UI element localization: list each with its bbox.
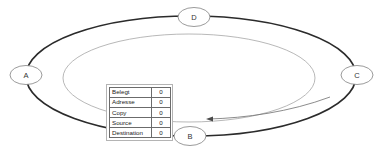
table-row: Adresse 0 bbox=[110, 98, 171, 108]
table-row: Destination 0 bbox=[110, 128, 171, 138]
table-cell-value: 0 bbox=[152, 88, 171, 98]
table-cell-value: 0 bbox=[152, 98, 171, 108]
node-d-label: D bbox=[191, 13, 197, 22]
table-cell-field: Adresse bbox=[110, 98, 152, 108]
table-cell-field: Source bbox=[110, 118, 152, 128]
node-b-label: B bbox=[187, 132, 192, 141]
table-cell-value: 0 bbox=[152, 118, 171, 128]
table-row: Source 0 bbox=[110, 118, 171, 128]
attributes-table-panel: Belegt 0 Adresse 0 Copy 0 Source 0 Desti… bbox=[106, 84, 173, 141]
table-cell-field: Copy bbox=[110, 108, 152, 118]
table-row: Copy 0 bbox=[110, 108, 171, 118]
node-d[interactable]: D bbox=[178, 8, 210, 27]
table-cell-value: 0 bbox=[152, 128, 171, 138]
node-a[interactable]: A bbox=[10, 66, 42, 85]
attributes-table-body: Belegt 0 Adresse 0 Copy 0 Source 0 Desti… bbox=[110, 88, 171, 138]
table-row: Belegt 0 bbox=[110, 88, 171, 98]
table-cell-field: Belegt bbox=[110, 88, 152, 98]
table-cell-value: 0 bbox=[152, 108, 171, 118]
attributes-table: Belegt 0 Adresse 0 Copy 0 Source 0 Desti… bbox=[109, 87, 171, 138]
reference-arrow-head bbox=[206, 117, 213, 122]
node-c[interactable]: C bbox=[341, 66, 373, 85]
node-b[interactable]: B bbox=[174, 127, 206, 146]
ring-diagram: A C D B bbox=[0, 0, 382, 154]
node-c-label: C bbox=[354, 71, 360, 80]
node-a-label: A bbox=[23, 71, 28, 80]
diagram-canvas: A C D B Belegt 0 Adresse bbox=[0, 0, 382, 154]
table-cell-field: Destination bbox=[110, 128, 152, 138]
reference-arrow-line bbox=[209, 97, 330, 119]
inner-ring-ellipse bbox=[63, 34, 315, 122]
